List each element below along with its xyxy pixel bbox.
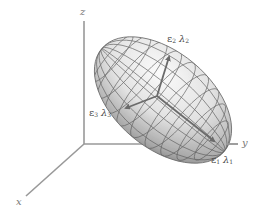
x-axis-label: x [16, 197, 22, 207]
eigenvector-subscript: 1 [216, 158, 220, 165]
eigenvector-subscript: 3 [94, 111, 98, 118]
y-axis-label: y [242, 138, 248, 148]
eigen-label-2: ε2λ2 [167, 34, 189, 46]
eigenvalue-subscript: 1 [229, 158, 233, 165]
z-axis-label: z [80, 7, 85, 17]
ellipsoid-eigenvector-diagram [0, 0, 261, 212]
x-axis [26, 144, 84, 196]
eigen-label-3: ε3λ3 [89, 108, 111, 120]
eigen-label-1: ε1λ1 [211, 155, 233, 167]
eigenvalue-subscript: 2 [185, 37, 189, 44]
eigenvalue-subscript: 3 [107, 111, 111, 118]
eigenvector-subscript: 2 [172, 37, 176, 44]
